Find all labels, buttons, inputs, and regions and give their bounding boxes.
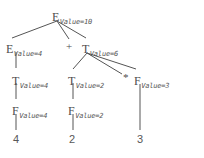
- node-symbol-e0: E: [52, 10, 59, 24]
- node-symbol-t1: T: [82, 42, 89, 56]
- tree-node-f3: FValue=3: [134, 72, 169, 88]
- node-symbol-e1: E: [6, 42, 13, 56]
- node-symbol-f3: F: [134, 74, 141, 88]
- tree-operator-times: *: [123, 72, 129, 83]
- node-attribute-t2: Value=4: [20, 82, 48, 90]
- node-attribute-t1: Value=6: [90, 50, 118, 58]
- tree-edge-e0-to-e1: [12, 21, 57, 38]
- tree-node-e0: EValue=10: [52, 8, 91, 24]
- tree-node-e1: EValue=4: [6, 40, 41, 56]
- node-attribute-e1: Value=4: [14, 50, 42, 58]
- tree-node-f2: FValue=2: [68, 102, 103, 118]
- tree-operator-plus: +: [66, 41, 72, 52]
- tree-node-t2: TValue=4: [12, 72, 47, 88]
- tree-node-f1: FValue=4: [12, 102, 47, 118]
- node-symbol-f2: F: [68, 104, 75, 118]
- parse-tree-diagram: EValue=10EValue=4TValue=6TValue=4TValue=…: [0, 0, 204, 158]
- node-attribute-t3: Value=2: [76, 82, 104, 90]
- node-symbol-f1: F: [12, 104, 19, 118]
- tree-node-t1: TValue=6: [82, 40, 117, 56]
- node-attribute-f2: Value=2: [75, 112, 103, 120]
- tree-leaf-leaf2: 2: [69, 134, 75, 145]
- node-symbol-t3: T: [68, 74, 75, 88]
- node-attribute-f3: Value=3: [141, 82, 169, 90]
- tree-leaf-leaf3: 3: [137, 134, 143, 145]
- tree-node-t3: TValue=2: [68, 72, 103, 88]
- tree-leaf-leaf4: 4: [13, 134, 19, 145]
- node-attribute-e0: Value=10: [60, 18, 92, 26]
- node-symbol-t2: T: [12, 74, 19, 88]
- node-attribute-f1: Value=4: [19, 112, 47, 120]
